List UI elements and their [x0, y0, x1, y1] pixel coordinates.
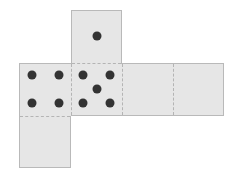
face-far-right [173, 63, 224, 116]
outline [71, 115, 224, 116]
outline [223, 63, 224, 116]
face-right [122, 63, 173, 116]
outline [71, 10, 72, 63]
pip [28, 71, 37, 80]
pip [106, 71, 115, 80]
pip [93, 85, 102, 94]
outline [19, 167, 71, 168]
pip [55, 71, 64, 80]
face-left [19, 63, 71, 116]
pip [93, 32, 102, 41]
pip [79, 99, 88, 108]
pip [28, 99, 37, 108]
outline [70, 116, 71, 168]
fold-line [20, 116, 70, 117]
pip [55, 99, 64, 108]
fold-line [72, 63, 121, 64]
outline [121, 10, 122, 63]
face-bottom [19, 116, 71, 168]
pip [106, 99, 115, 108]
fold-line [173, 64, 174, 115]
pip [79, 71, 88, 80]
fold-line [122, 64, 123, 115]
outline [71, 10, 122, 11]
outline [19, 63, 72, 64]
fold-line [71, 64, 72, 115]
